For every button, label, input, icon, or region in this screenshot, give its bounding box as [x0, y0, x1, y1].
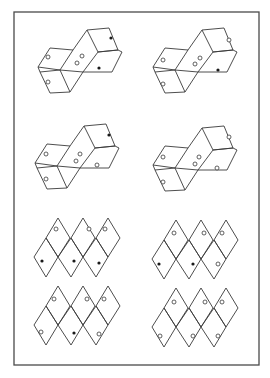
open-dot-marker: [227, 135, 231, 139]
open-dot-marker: [172, 231, 176, 235]
diagram-canvas: [0, 0, 270, 378]
open-dot-marker: [46, 80, 50, 84]
rhombus-net-4: [152, 288, 238, 347]
rhombus-net-3: [34, 286, 120, 345]
open-dot-marker: [158, 334, 162, 338]
cube-figure-1: [38, 28, 122, 93]
solid-dot-marker: [72, 331, 75, 334]
open-dot-marker: [74, 159, 78, 163]
open-dot-marker: [198, 56, 202, 60]
open-dot-marker: [202, 231, 206, 235]
open-dot-marker: [172, 300, 176, 304]
solid-dot-marker: [216, 68, 219, 71]
open-dot-marker: [75, 61, 79, 65]
solid-dot-marker: [97, 261, 100, 264]
solid-dot-marker: [107, 133, 110, 136]
open-dot-marker: [102, 297, 106, 301]
open-dot-marker: [39, 330, 43, 334]
open-dot-marker: [95, 163, 99, 167]
open-dot-marker: [46, 55, 50, 59]
open-dot-marker: [227, 38, 231, 42]
open-dot-marker: [87, 227, 91, 231]
open-dot-marker: [220, 231, 224, 235]
open-dot-marker: [44, 152, 48, 156]
rhombus-net-1: [34, 218, 120, 277]
solid-dot-marker: [40, 259, 43, 262]
cube-figure-4: [153, 126, 237, 191]
open-dot-marker: [80, 54, 84, 58]
open-dot-marker: [52, 297, 56, 301]
open-dot-marker: [97, 332, 101, 336]
open-dot-marker: [78, 152, 82, 156]
open-dot-marker: [215, 166, 219, 170]
open-dot-marker: [103, 227, 107, 231]
solid-dot-marker: [97, 66, 100, 69]
open-dot-marker: [161, 180, 165, 184]
open-dot-marker: [216, 334, 220, 338]
open-dot-marker: [54, 227, 58, 231]
rhombus-net-2: [152, 220, 238, 279]
open-dot-marker: [85, 297, 89, 301]
open-dot-marker: [197, 155, 201, 159]
open-dot-marker: [220, 300, 224, 304]
open-dot-marker: [193, 162, 197, 166]
open-dot-marker: [191, 334, 195, 338]
solid-dot-marker: [109, 36, 112, 39]
solid-dot-marker: [72, 259, 75, 262]
open-dot-marker: [193, 62, 197, 66]
open-dot-marker: [44, 177, 48, 181]
open-dot-marker: [161, 58, 165, 62]
solid-dot-marker: [191, 262, 194, 265]
open-dot-marker: [161, 155, 165, 159]
open-dot-marker: [161, 82, 165, 86]
open-dot-marker: [216, 262, 220, 266]
cube-figure-3: [35, 124, 119, 189]
cube-figure-2: [153, 28, 237, 93]
solid-dot-marker: [157, 262, 160, 265]
open-dot-marker: [203, 300, 207, 304]
